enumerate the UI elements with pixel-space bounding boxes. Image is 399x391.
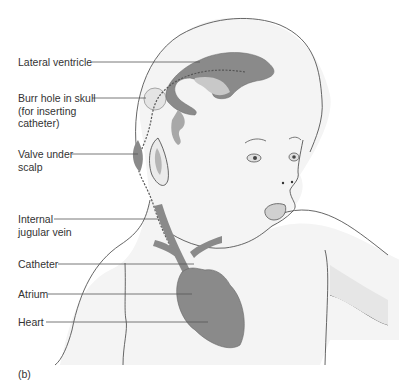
label-line: jugular vein	[18, 226, 72, 239]
label-line: Catheter	[18, 258, 58, 271]
label-line: catheter)	[18, 117, 96, 130]
label-line: Valve under	[18, 148, 73, 161]
label-burr-hole: Burr hole in skull (for inserting cathet…	[18, 92, 96, 130]
label-line: Heart	[18, 316, 44, 329]
label-atrium: Atrium	[18, 288, 48, 301]
burr-hole	[144, 88, 166, 110]
label-heart: Heart	[18, 316, 44, 329]
label-line: Internal	[18, 213, 72, 226]
label-valve: Valve under scalp	[18, 148, 73, 173]
label-lateral-ventricle: Lateral ventricle	[18, 56, 92, 69]
label-line: Lateral ventricle	[18, 56, 92, 69]
label-line: scalp	[18, 161, 73, 174]
panel-label: (b)	[18, 368, 31, 380]
label-catheter: Catheter	[18, 258, 58, 271]
label-jugular-vein: Internal jugular vein	[18, 213, 72, 238]
label-line: Burr hole in skull	[18, 92, 96, 105]
label-line: (for inserting	[18, 105, 96, 118]
valve	[133, 140, 143, 172]
label-line: Atrium	[18, 288, 48, 301]
